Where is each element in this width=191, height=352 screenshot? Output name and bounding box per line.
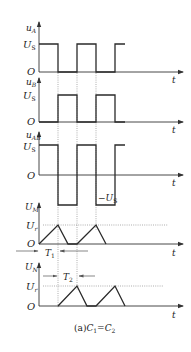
time-label: t — [172, 248, 176, 258]
uAB-level-label: US — [23, 141, 36, 153]
uB-axis-label: uB — [26, 77, 37, 88]
uA-axis-label: uA — [26, 23, 37, 34]
time-label: t — [172, 178, 176, 188]
uB-level-label: US — [23, 90, 36, 102]
origin-label: O — [27, 238, 35, 249]
origin-label: O — [27, 116, 35, 127]
UN-waveform — [58, 286, 125, 306]
T1-label: T1 — [45, 248, 55, 259]
UN-axis-label: UN — [25, 262, 39, 273]
uAB-axis-label: uAB — [26, 130, 41, 141]
panel-uA: uA US O t — [23, 22, 183, 85]
uB-waveform — [39, 95, 125, 122]
time-label: t — [172, 125, 176, 135]
time-label: t — [172, 75, 176, 85]
origin-label: O — [27, 301, 35, 312]
panel-uAB: uAB US −US O t — [23, 130, 183, 205]
UM-axis-label: UM — [25, 202, 40, 213]
UN-threshold-label: Ur — [26, 281, 38, 293]
uA-waveform — [39, 44, 125, 72]
time-label: t — [172, 310, 176, 320]
uA-level-label: US — [23, 39, 36, 51]
panel-UM: UM Ur O t T1 — [16, 202, 183, 259]
panel-UN: UN Ur O t T2 — [25, 262, 183, 320]
figure-caption: (a)C1=C2 — [74, 323, 116, 334]
T2-label: T2 — [63, 272, 73, 283]
origin-label: O — [27, 170, 35, 181]
origin-label: O — [27, 66, 35, 77]
UM-threshold-label: Ur — [26, 220, 38, 232]
panel-uB: uB US O t — [23, 77, 183, 135]
waveform-diagram: uA US O t uB US O t uAB US −US O t UM Ur… — [0, 0, 191, 352]
